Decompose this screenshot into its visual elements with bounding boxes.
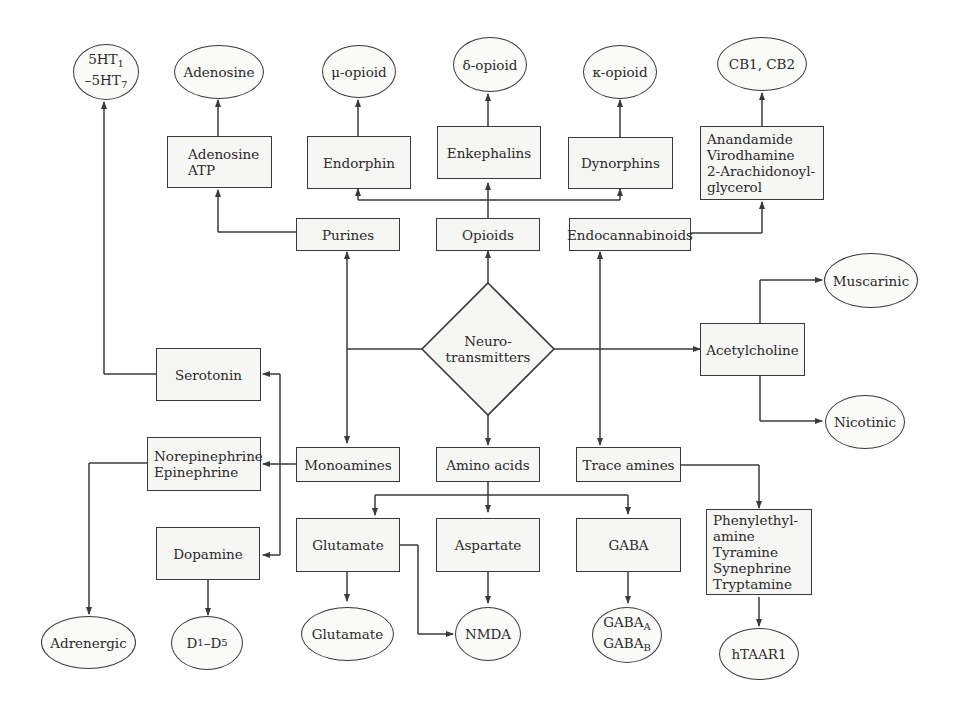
node-norepinephrine-epinephrine: Norepinephrine Epinephrine xyxy=(147,437,261,491)
receptor-kappa-opioid: κ-opioid xyxy=(583,45,657,99)
node-adenosine-atp: Adenosine ATP xyxy=(167,136,272,188)
center-node-neurotransmitters: Neuro- transmitters xyxy=(430,333,546,365)
receptor-5ht1-5ht7: 5HT1 –5HT7 xyxy=(73,44,139,100)
receptor-gaba-a: GABAA xyxy=(603,614,650,635)
node-trace-amine-list: Phenylethyl- amine Tyramine Synephrine T… xyxy=(706,509,812,595)
neurotransmitter-diagram: Neuro- transmitters Purines Opioids Endo… xyxy=(0,0,956,707)
node-enkephalins: Enkephalins xyxy=(437,126,541,179)
node-dopamine: Dopamine xyxy=(156,527,260,580)
receptor-htaar1: hTAAR1 xyxy=(719,628,799,680)
node-serotonin: Serotonin xyxy=(156,348,261,401)
node-dynorphins: Dynorphins xyxy=(568,137,673,189)
receptor-5ht-line1: 5HT1 xyxy=(88,51,124,72)
receptor-glutamate: Glutamate xyxy=(301,607,394,661)
receptor-cb1-cb2: CB1, CB2 xyxy=(717,37,807,91)
category-monoamines: Monoamines xyxy=(296,447,400,482)
category-opioids: Opioids xyxy=(436,218,540,251)
receptor-adenosine: Adenosine xyxy=(174,45,264,99)
category-amino-acids: Amino acids xyxy=(436,447,540,482)
node-glutamate: Glutamate xyxy=(296,518,400,572)
category-purines: Purines xyxy=(296,218,400,251)
receptor-nicotinic: Nicotinic xyxy=(825,395,905,449)
node-aspartate: Aspartate xyxy=(436,518,540,572)
receptor-5ht-line2: –5HT7 xyxy=(85,72,128,93)
node-endocannabinoid-list: Anandamide Virodhamine 2-Arachidonoyl- g… xyxy=(700,126,824,200)
receptor-mu-opioid: μ-opioid xyxy=(322,45,396,98)
node-gaba: GABA xyxy=(576,518,681,572)
receptor-gaba-a-b: GABAA GABAB xyxy=(592,607,662,663)
category-trace-amines: Trace amines xyxy=(576,447,681,482)
receptor-adrenergic: Adrenergic xyxy=(41,616,136,669)
category-acetylcholine: Acetylcholine xyxy=(700,323,805,376)
receptor-delta-opioid: δ-opioid xyxy=(453,37,527,92)
receptor-muscarinic: Muscarinic xyxy=(824,253,918,308)
receptor-d1-d5: D1–D5 xyxy=(171,616,243,670)
node-endorphin: Endorphin xyxy=(307,136,411,189)
receptor-nmda: NMDA xyxy=(455,607,521,661)
receptor-gaba-b: GABAB xyxy=(603,635,651,656)
category-endocannabinoids: Endocannabinoids xyxy=(569,218,691,251)
